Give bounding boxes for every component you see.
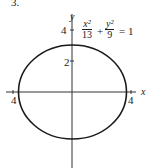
- y-tick-label-2: 2: [64, 57, 70, 68]
- equation-rhs: = 1: [119, 25, 133, 37]
- x-axis-label: x: [141, 86, 145, 97]
- fraction-x: x² 13: [82, 19, 92, 40]
- x-tick-label-neg4: 4: [11, 95, 17, 106]
- fraction-x-denominator: 13: [82, 30, 92, 40]
- x-tick-label-4: 4: [128, 95, 134, 106]
- fraction-y-denominator: 9: [107, 30, 112, 40]
- y-axis-label: y: [70, 11, 74, 22]
- plus-sign: +: [97, 25, 103, 37]
- fraction-y: y² 9: [105, 19, 114, 40]
- y-tick-label-4: 4: [61, 25, 67, 36]
